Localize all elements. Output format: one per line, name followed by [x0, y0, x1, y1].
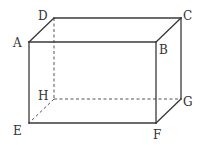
vertex-label-e: E — [13, 124, 22, 138]
prism-diagram: ABCDEFGH — [0, 0, 201, 145]
vertex-label-d: D — [38, 9, 48, 23]
edge-gf — [156, 99, 181, 123]
visible-edges — [29, 18, 181, 123]
vertex-label-f: F — [153, 128, 161, 142]
vertex-label-b: B — [159, 43, 168, 57]
vertex-label-g: G — [183, 95, 193, 109]
vertex-label-c: C — [183, 9, 192, 23]
vertex-labels: ABCDEFGH — [12, 9, 193, 142]
vertex-label-h: H — [38, 89, 48, 103]
edge-cb — [156, 18, 181, 42]
prism-svg: ABCDEFGH — [0, 0, 201, 145]
hidden-edges — [29, 18, 181, 123]
vertex-label-a: A — [12, 36, 22, 50]
